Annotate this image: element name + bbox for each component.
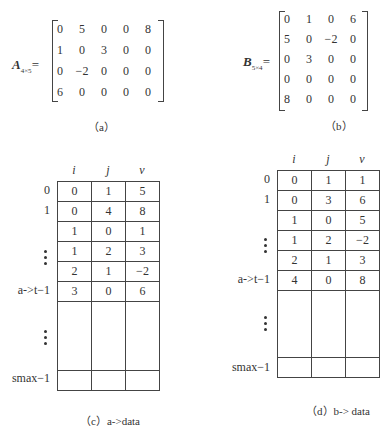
table-cell: 0 (58, 182, 92, 202)
table-cell: 1 (58, 242, 92, 262)
table-cell: 1 (312, 171, 346, 191)
table-row-empty (58, 302, 160, 371)
table-cell-empty (126, 302, 160, 371)
table-cell-empty (92, 302, 126, 371)
index-1: 1 (256, 192, 270, 207)
matrix-cell: 5 (72, 22, 92, 37)
table-row: 21−2 (58, 262, 160, 282)
table-row: 101 (58, 222, 160, 242)
matrix-a-right-bracket (158, 20, 164, 102)
matrix-cell: 0 (94, 22, 114, 37)
table-cell: 4 (278, 271, 312, 291)
table-cell: 0 (312, 271, 346, 291)
matrix-cell: −2 (72, 64, 92, 79)
matrix-cell: 0 (343, 52, 363, 67)
header-i: i (57, 163, 91, 178)
table-row: 048 (58, 202, 160, 222)
table-cell: 2 (92, 242, 126, 262)
table-cell-empty (92, 371, 126, 391)
table-cell: 2 (312, 231, 346, 251)
caption-d: （d）b-> data (306, 402, 370, 418)
table-cell-empty (278, 291, 312, 358)
table-cell: 8 (346, 271, 380, 291)
table-cell-empty (312, 291, 346, 358)
header-v: v (345, 152, 379, 167)
matrix-cell: 0 (321, 72, 341, 87)
index-max: smax−1 (215, 360, 270, 375)
table-cell: 3 (126, 242, 160, 262)
vdots-icon (44, 330, 48, 348)
vdots-icon (264, 238, 268, 256)
table-cell: −2 (126, 262, 160, 282)
table-cell: 0 (92, 222, 126, 242)
table-cell-empty (58, 371, 92, 391)
table-cell: 6 (126, 282, 160, 302)
table-cell: 0 (278, 191, 312, 211)
matrix-cell: 0 (299, 72, 319, 87)
table-row: 036 (278, 191, 380, 211)
header-j: j (91, 163, 125, 178)
matrix-cell: 0 (94, 85, 114, 100)
matrix-cell: 0 (277, 52, 297, 67)
matrix-cell: 0 (116, 22, 136, 37)
matrix-cell: 0 (343, 92, 363, 107)
matrix-cell: 0 (72, 43, 92, 58)
matrix-b-label: B5×4= (243, 52, 270, 72)
table-row: 123 (58, 242, 160, 262)
index-max: smax−1 (0, 371, 50, 386)
table-cell-empty (312, 358, 346, 378)
array-c-table: 01504810112321−2306 (57, 181, 160, 391)
table-cell: 3 (58, 282, 92, 302)
table-row: 011 (278, 171, 380, 191)
table-row: 306 (58, 282, 160, 302)
table-cell: 0 (92, 282, 126, 302)
table-cell: 1 (58, 222, 92, 242)
table-cell-empty (346, 291, 380, 358)
table-row: 408 (278, 271, 380, 291)
table-cell: 4 (92, 202, 126, 222)
table-cell: 0 (278, 171, 312, 191)
header-i: i (277, 152, 311, 167)
matrix-cell: 8 (138, 22, 158, 37)
matrix-cell: 0 (299, 32, 319, 47)
matrix-cell: 0 (321, 92, 341, 107)
table-cell: 1 (126, 222, 160, 242)
table-row-empty (278, 358, 380, 378)
table-cell: 6 (346, 191, 380, 211)
array-d-table: 01103610512−2213408 (277, 170, 380, 378)
matrix-cell: 3 (299, 52, 319, 67)
table-cell-empty (58, 302, 92, 371)
table-cell: 1 (92, 262, 126, 282)
caption-c: （c）a->data (80, 412, 140, 428)
matrix-cell: 0 (138, 64, 158, 79)
table-cell: 5 (126, 182, 160, 202)
table-cell: 1 (312, 251, 346, 271)
table-cell: 3 (346, 251, 380, 271)
matrix-cell: 0 (138, 85, 158, 100)
table-cell: 0 (58, 202, 92, 222)
matrix-cell: −2 (321, 32, 341, 47)
table-cell-empty (346, 358, 380, 378)
matrix-cell: 0 (343, 32, 363, 47)
table-row-empty (58, 371, 160, 391)
table-row: 015 (58, 182, 160, 202)
index-last: a->t−1 (215, 272, 270, 287)
table-row: 105 (278, 211, 380, 231)
matrix-cell: 6 (50, 85, 70, 100)
matrix-cell: 0 (321, 12, 341, 27)
matrix-cell: 0 (138, 43, 158, 58)
matrix-cell: 0 (72, 85, 92, 100)
matrix-a-label: A4×5= (12, 55, 39, 75)
table-cell: 1 (346, 171, 380, 191)
vdots-icon (44, 250, 48, 268)
matrix-cell: 0 (116, 64, 136, 79)
matrix-cell: 1 (299, 12, 319, 27)
matrix-cell: 0 (50, 64, 70, 79)
matrix-cell: 3 (94, 43, 114, 58)
table-cell: 3 (312, 191, 346, 211)
matrix-cell: 0 (116, 43, 136, 58)
index-last: a->t−1 (0, 283, 50, 298)
table-cell: 1 (92, 182, 126, 202)
matrix-cell: 0 (94, 64, 114, 79)
matrix-cell: 0 (50, 22, 70, 37)
